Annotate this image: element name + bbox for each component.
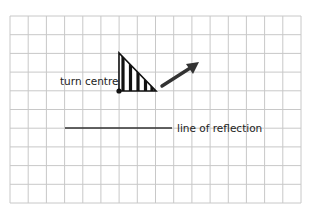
turn-centre-point [116, 88, 121, 93]
diagram-canvas: turn centre line of reflection [0, 0, 312, 219]
direction-arrow-icon [162, 62, 199, 86]
grid [10, 16, 301, 203]
turn-centre-label: turn centre [60, 75, 118, 87]
line-of-reflection-label: line of reflection [177, 122, 262, 134]
